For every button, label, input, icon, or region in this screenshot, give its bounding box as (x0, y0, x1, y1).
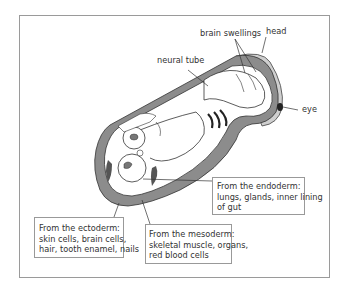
endoderm-line1: lungs, glands, inner lining (217, 192, 300, 203)
endoderm-line2: of gut (217, 202, 300, 213)
ectoderm-box: From the ectoderm: skin cells, brain cel… (34, 217, 124, 258)
ectoderm-line1: skin cells, brain cells, (39, 234, 119, 245)
brain-swellings-label: brain swellings (200, 28, 261, 38)
head-label: head (266, 26, 286, 36)
endoderm-box: From the endoderm: lungs, glands, inner … (212, 177, 305, 215)
mesoderm-box: From the mesoderm: skeletal muscle, orga… (145, 224, 232, 264)
eye-label: eye (302, 104, 317, 114)
ectoderm-line2: hair, tooth enamel, nails (39, 244, 119, 255)
mesoderm-line1: skeletal muscle, organs, (149, 240, 228, 251)
mesoderm-line2: red blood cells (149, 250, 228, 261)
neural-tube-label: neural tube (157, 55, 204, 65)
ectoderm-title: From the ectoderm: (39, 223, 119, 234)
endoderm-title: From the endoderm: (217, 181, 300, 192)
mesoderm-title: From the mesoderm: (149, 229, 228, 240)
